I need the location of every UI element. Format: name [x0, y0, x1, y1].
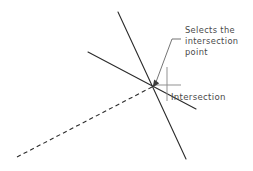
- intersection-snap-diagram: Selects the intersection point Intersect…: [0, 0, 253, 171]
- annotation-line-3: point: [185, 47, 208, 57]
- annotation-line-2: intersection: [185, 36, 238, 46]
- diagram-root: Selects the intersection point Intersect…: [0, 0, 253, 171]
- intersection-snap-label: Intersection: [171, 92, 226, 102]
- annotation-line-1: Selects the: [185, 25, 235, 35]
